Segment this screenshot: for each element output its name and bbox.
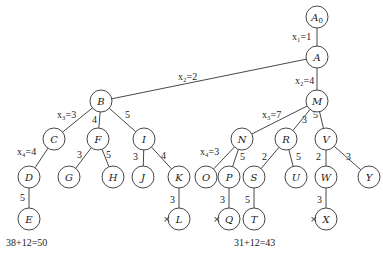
node-U: U: [285, 166, 307, 188]
node-label: X: [321, 214, 330, 225]
edge-label: 5: [106, 149, 111, 160]
node-A0: A0: [306, 6, 328, 28]
node-G: G: [58, 166, 80, 188]
cost-label: 38+12=50: [6, 237, 47, 248]
node-N: N: [231, 128, 253, 150]
edge-label: 3: [346, 151, 351, 162]
tree-canvas: x₁=1x₂=2x₂=4x₃=345x₃=735x₄=43534x₄=35252…: [0, 0, 383, 256]
edge-label: 4: [161, 150, 166, 161]
edge-label: 3: [133, 151, 138, 162]
edge-label: 5: [240, 151, 245, 162]
node-B: B: [90, 90, 112, 112]
node-Q: Q: [218, 208, 240, 230]
node-label: S: [251, 172, 258, 183]
node-T: T: [243, 208, 265, 230]
node-A: A: [306, 46, 328, 68]
edge-label: x₂=4: [295, 75, 314, 86]
pruned-cross-icon: ×: [163, 214, 171, 224]
edge-label: 5: [296, 151, 301, 162]
node-O: O: [195, 166, 217, 188]
cost-labels-layer: 38+12=5031+12=43: [6, 237, 275, 248]
edge-label: x₄=4: [17, 146, 36, 157]
edge-B-F: [99, 112, 100, 128]
edge-C-D: [35, 148, 48, 168]
edge-label: 2: [316, 151, 321, 162]
cost-label: 31+12=43: [234, 237, 275, 248]
node-label: H: [108, 172, 118, 183]
edge-label: 3: [77, 149, 82, 160]
node-label: J: [139, 172, 146, 183]
node-label: M: [311, 96, 323, 107]
pruned-cross-icon: ×: [213, 214, 221, 224]
edge-label: x₃=3: [57, 109, 76, 120]
node-label: B: [96, 96, 104, 107]
search-tree-diagram: x₁=1x₂=2x₂=4x₃=345x₃=735x₄=43534x₄=35252…: [0, 0, 383, 256]
edge-label: x₂=2: [178, 71, 197, 82]
edge-N-P: [233, 149, 239, 166]
node-X: X: [315, 208, 337, 230]
node-label: G: [65, 172, 73, 183]
edge-label: x₃=7: [262, 109, 281, 120]
node-label: A: [312, 52, 320, 63]
node-H: H: [102, 166, 124, 188]
node-Y: Y: [358, 166, 380, 188]
node-P: P: [218, 166, 240, 188]
edge-label: x₄=3: [200, 146, 219, 157]
node-I: I: [133, 128, 155, 150]
node-S: S: [243, 166, 265, 188]
node-label: D: [24, 172, 33, 183]
node-label: P: [225, 172, 233, 183]
node-label: O: [202, 172, 210, 183]
node-V: V: [315, 128, 337, 150]
node-C: C: [43, 128, 65, 150]
node-label: R: [281, 134, 290, 145]
node-M: M: [306, 90, 328, 112]
node-J: J: [132, 166, 154, 188]
node-label: K: [174, 172, 183, 183]
edge-B-I: [109, 108, 136, 131]
node-D: D: [18, 166, 40, 188]
node-K: K: [168, 166, 190, 188]
node-label: E: [24, 214, 33, 225]
edge-label: 5: [20, 192, 25, 203]
node-label: F: [94, 134, 103, 145]
node-F: F: [87, 128, 109, 150]
edge-label: x₁=1: [292, 31, 311, 42]
edge-label: 5: [245, 194, 250, 205]
node-label: U: [292, 172, 301, 183]
node-label: W: [321, 172, 332, 183]
edge-label: 4: [92, 114, 97, 125]
node-W: W: [315, 166, 337, 188]
edge-label: 3: [317, 194, 322, 205]
pruned-cross-icon: ×: [310, 214, 318, 224]
edge-label: 3: [220, 194, 225, 205]
edge-label: 3: [170, 194, 175, 205]
edge-label: 3: [302, 114, 307, 125]
node-label: C: [50, 134, 58, 145]
node-label: N: [237, 134, 248, 145]
edge-M-V: [320, 112, 324, 129]
node-label: Q: [225, 214, 233, 225]
edge-A-B: [112, 59, 306, 99]
edge-label: 5: [125, 109, 130, 120]
node-L: L: [168, 208, 190, 230]
edge-label: 2: [262, 151, 267, 162]
node-E: E: [18, 208, 40, 230]
edge-R-U: [289, 150, 293, 167]
node-label: L: [175, 214, 183, 225]
node-R: R: [275, 128, 297, 150]
